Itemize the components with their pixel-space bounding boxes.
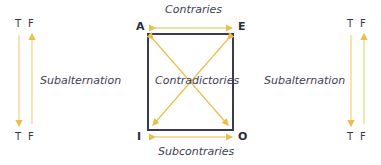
left-top-f: F <box>28 18 34 29</box>
left-bottom-t: T <box>15 131 21 142</box>
corner-e: E <box>238 20 246 33</box>
contraries-label: Contraries <box>165 3 222 16</box>
contradictories-label: Contradictories <box>155 74 239 87</box>
corner-o: O <box>238 130 247 143</box>
left-top-t: T <box>15 18 21 29</box>
left-bottom-f: F <box>28 131 34 142</box>
subcontraries-label: Subcontraries <box>158 145 234 158</box>
right-top-f: F <box>360 18 366 29</box>
right-bottom-t: T <box>347 131 353 142</box>
subalternation-right-label: Subalternation <box>264 74 345 87</box>
subalternation-left-label: Subalternation <box>40 74 121 87</box>
corner-i: I <box>137 130 141 143</box>
corner-a: A <box>136 20 145 33</box>
right-top-t: T <box>347 18 353 29</box>
right-bottom-f: F <box>360 131 366 142</box>
